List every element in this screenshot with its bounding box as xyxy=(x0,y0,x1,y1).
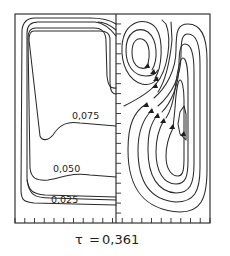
center-axis-ticks xyxy=(116,24,121,213)
flow-figure: 0,075 0,050 0,025 τ = 0,361 xyxy=(0,0,230,256)
arrow-icon xyxy=(169,124,175,129)
left-panel-isolines xyxy=(21,18,116,205)
right-panel-streamlines xyxy=(122,20,207,212)
arrow-icon xyxy=(160,118,166,123)
bottom-axis-ticks xyxy=(15,218,210,223)
streamline-top-right-1 xyxy=(158,22,172,92)
streamline-small-vortex-1 xyxy=(132,39,149,69)
caption-symbol: τ xyxy=(75,232,83,247)
arrow-icon xyxy=(152,83,158,88)
arrow-icon xyxy=(144,63,150,68)
figure-frame xyxy=(15,14,210,223)
arrow-icon xyxy=(148,108,154,113)
arrow-icon xyxy=(150,69,156,74)
caption-value: 0,361 xyxy=(102,232,139,247)
streamline-small-vortex-2 xyxy=(126,30,158,76)
caption-equals: = xyxy=(89,232,100,247)
contour-label-0-050: 0,050 xyxy=(53,163,80,174)
arrow-icon xyxy=(154,113,160,118)
streamline-large-1 xyxy=(128,24,207,212)
contour-label-0-025: 0,025 xyxy=(51,194,78,205)
isoline-outer xyxy=(21,18,116,205)
streamline-vortex-open-1 xyxy=(124,20,169,106)
isoline-0-075 xyxy=(29,31,116,140)
contour-label-0-075: 0,075 xyxy=(72,110,99,121)
isoline-inner-loop xyxy=(28,28,116,180)
arrow-icon xyxy=(180,131,186,136)
arrow-icon xyxy=(143,102,149,107)
